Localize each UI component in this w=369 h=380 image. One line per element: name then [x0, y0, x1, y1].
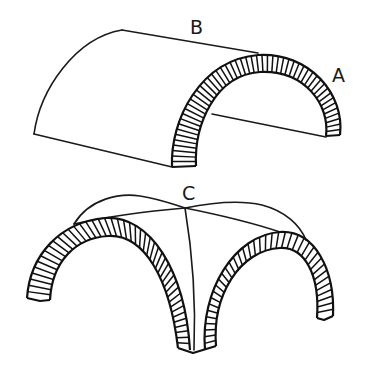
label-b: B — [190, 16, 203, 38]
label-c: C — [182, 182, 195, 204]
barrel-base-line — [34, 134, 172, 167]
left-arch-inner — [50, 236, 178, 348]
barrel-front-arch — [172, 55, 341, 167]
groin-center-rib — [185, 208, 195, 350]
arch-foot-right — [326, 135, 340, 136]
groin-right-diagonal — [185, 208, 280, 232]
right-arch-foot — [317, 316, 333, 320]
barrel-inner-line — [212, 114, 326, 137]
center-pier-foot — [178, 346, 216, 353]
right-arch-inner — [216, 248, 318, 346]
groin-right-arch — [205, 232, 334, 350]
barrel-vault — [34, 30, 340, 167]
left-arch-foot — [27, 298, 50, 301]
barrel-back-profile — [34, 30, 122, 134]
vault-diagram: B A C — [0, 0, 369, 380]
arch-foot-left — [172, 166, 196, 167]
groin-left-arch — [27, 218, 190, 350]
label-a: A — [332, 64, 345, 86]
groin-vault — [27, 195, 333, 353]
